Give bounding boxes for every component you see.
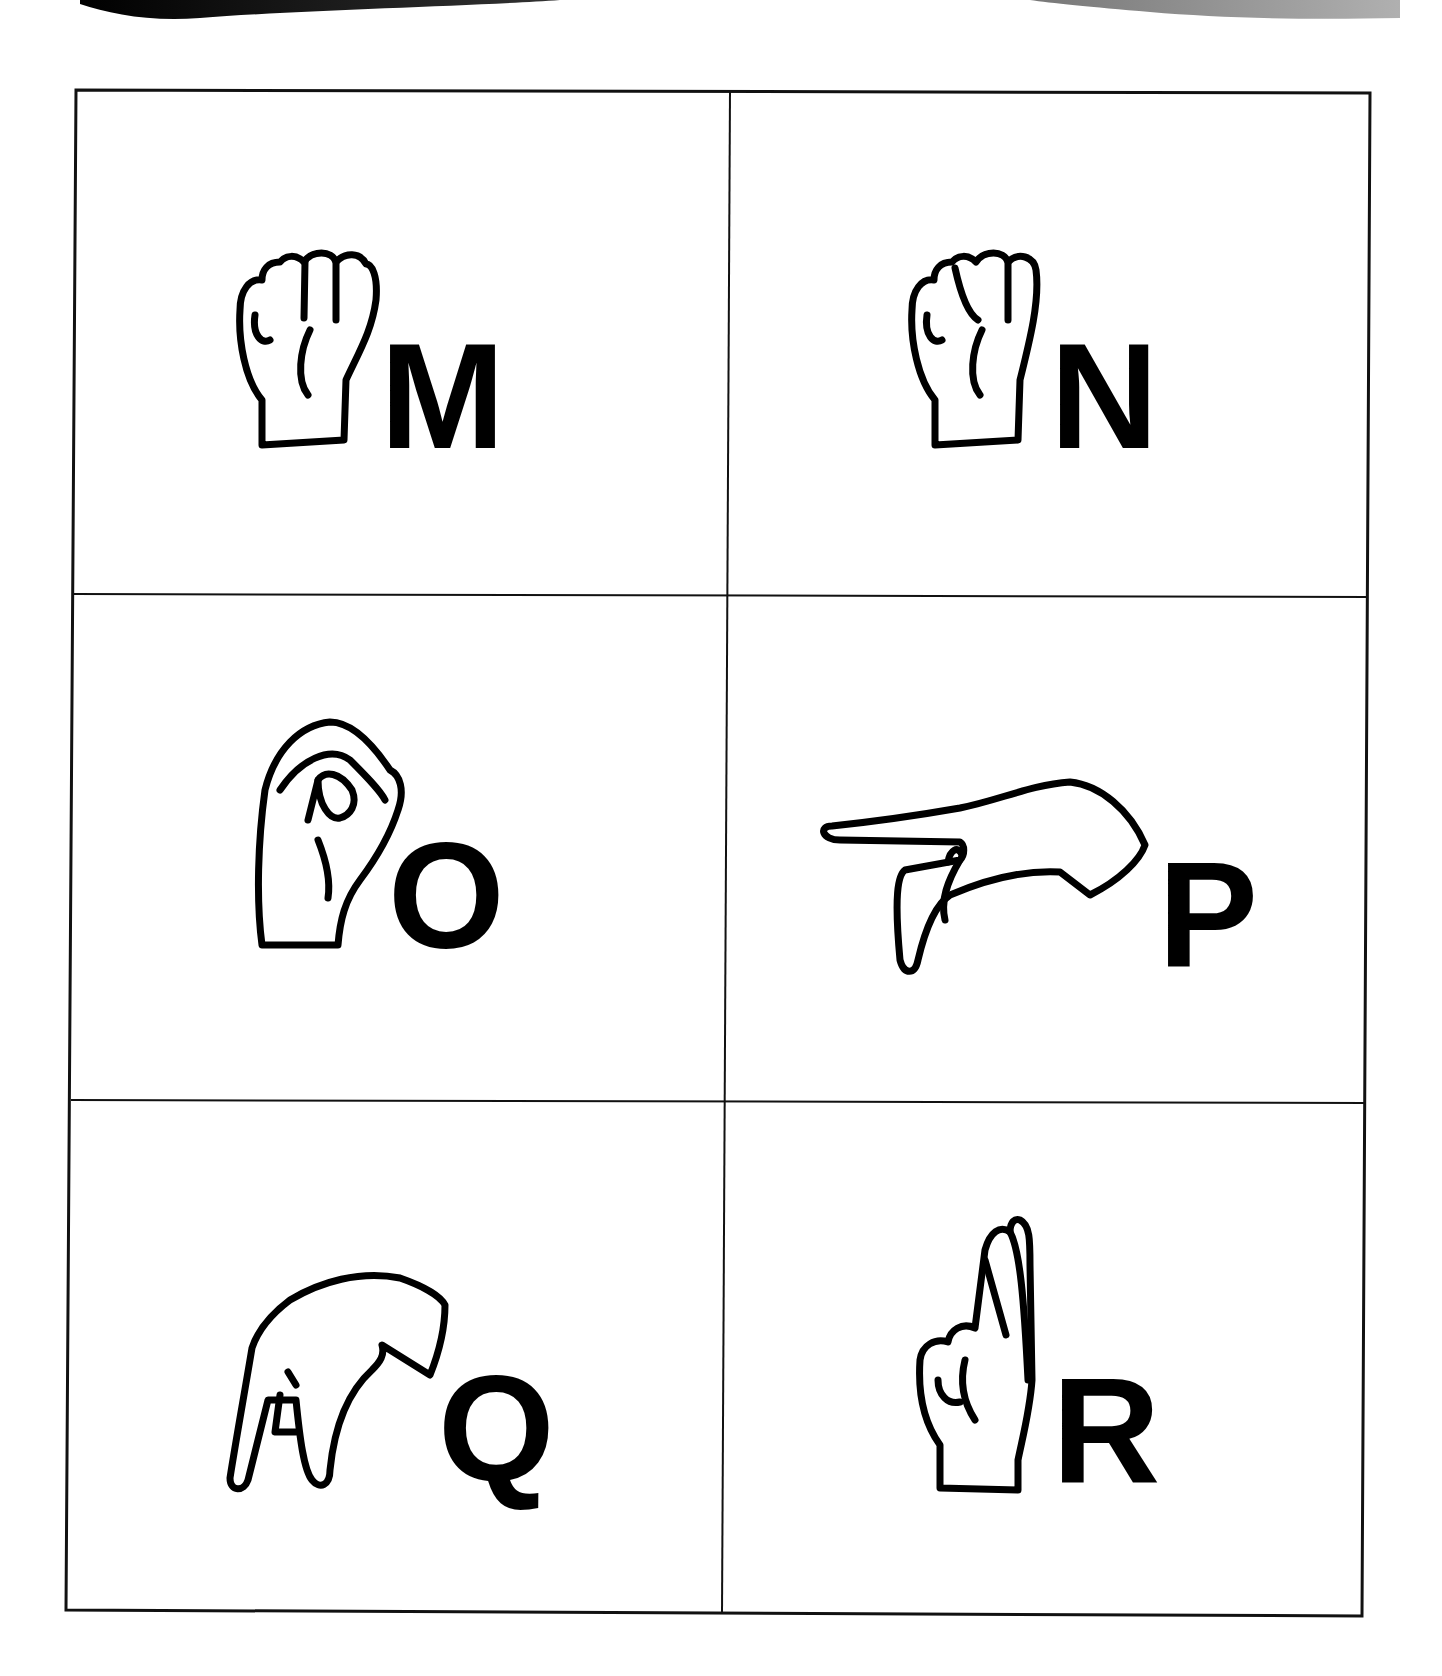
card-m[interactable]: M (76, 91, 730, 594)
letter-o: O (388, 812, 505, 980)
card-o[interactable]: O (74, 595, 728, 1101)
card-n[interactable]: N (730, 92, 1370, 595)
letter-q: Q (438, 1344, 555, 1512)
letter-m: M (380, 312, 505, 480)
card-p[interactable]: P (727, 596, 1368, 1102)
alphabet-sheet: M N O P (0, 0, 1442, 1676)
letter-p: P (1158, 830, 1258, 998)
card-q[interactable]: Q (71, 1101, 722, 1611)
card-r[interactable]: R (722, 1102, 1365, 1614)
letter-r: R (1052, 1346, 1160, 1514)
letter-n: N (1050, 312, 1158, 480)
